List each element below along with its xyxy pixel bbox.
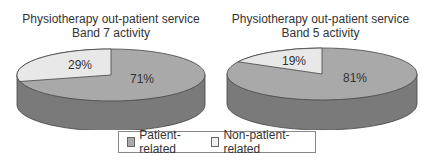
legend-label: Patient-related xyxy=(139,128,201,156)
patient-swatch-icon xyxy=(127,137,135,147)
pie-band7: 29% 71% xyxy=(17,49,205,130)
legend-label: Non-patient-related xyxy=(223,128,305,156)
non-patient-swatch-icon xyxy=(211,137,219,147)
pie-band5: 19% 81% xyxy=(227,48,417,130)
legend-item-patient: Patient-related xyxy=(127,128,201,156)
svg-text:19%: 19% xyxy=(282,54,306,68)
svg-text:81%: 81% xyxy=(343,71,367,85)
legend: Patient-related Non-patient-related xyxy=(118,131,316,153)
svg-text:71%: 71% xyxy=(130,72,154,86)
legend-item-non-patient: Non-patient-related xyxy=(211,128,305,156)
pie-charts: 29% 71% 19% 81% xyxy=(0,0,427,130)
svg-text:29%: 29% xyxy=(68,58,92,72)
